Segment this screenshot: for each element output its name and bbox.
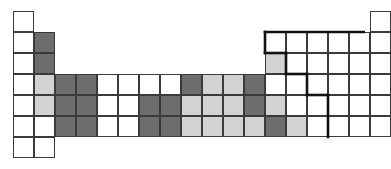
element-cell[interactable]	[13, 11, 34, 32]
element-cell[interactable]	[286, 53, 307, 74]
element-cell[interactable]	[55, 74, 76, 95]
element-cell[interactable]	[202, 95, 223, 116]
element-cell[interactable]	[265, 53, 286, 74]
element-cell[interactable]	[349, 32, 370, 53]
element-cell[interactable]	[34, 53, 55, 74]
element-cell[interactable]	[202, 116, 223, 137]
element-cell[interactable]	[13, 137, 34, 158]
element-cell[interactable]	[307, 95, 328, 116]
element-cell[interactable]	[34, 32, 55, 53]
element-cell[interactable]	[160, 116, 181, 137]
element-cell[interactable]	[34, 116, 55, 137]
element-cell[interactable]	[76, 74, 97, 95]
element-cell[interactable]	[370, 116, 391, 137]
element-cell[interactable]	[370, 95, 391, 116]
element-cell[interactable]	[13, 116, 34, 137]
element-cell[interactable]	[181, 116, 202, 137]
element-cell[interactable]	[13, 53, 34, 74]
element-cell[interactable]	[118, 95, 139, 116]
element-cell[interactable]	[160, 74, 181, 95]
element-cell[interactable]	[286, 116, 307, 137]
element-cell[interactable]	[118, 116, 139, 137]
element-cell[interactable]	[13, 95, 34, 116]
element-cell[interactable]	[370, 53, 391, 74]
element-cell[interactable]	[97, 95, 118, 116]
element-cell[interactable]	[349, 53, 370, 74]
element-cell[interactable]	[265, 116, 286, 137]
element-cell[interactable]	[13, 74, 34, 95]
element-cell[interactable]	[139, 74, 160, 95]
element-cell[interactable]	[76, 116, 97, 137]
element-cell[interactable]	[139, 95, 160, 116]
element-cell[interactable]	[202, 74, 223, 95]
element-cell[interactable]	[55, 116, 76, 137]
element-cell[interactable]	[349, 116, 370, 137]
element-cell[interactable]	[223, 116, 244, 137]
element-cell[interactable]	[286, 32, 307, 53]
element-cell[interactable]	[13, 32, 34, 53]
element-cell[interactable]	[265, 74, 286, 95]
element-cell[interactable]	[118, 74, 139, 95]
element-cell[interactable]	[328, 32, 349, 53]
element-cell[interactable]	[307, 116, 328, 137]
element-cell[interactable]	[307, 32, 328, 53]
element-cell[interactable]	[181, 74, 202, 95]
element-cell[interactable]	[328, 95, 349, 116]
element-cell[interactable]	[328, 116, 349, 137]
element-cell[interactable]	[349, 95, 370, 116]
element-cell[interactable]	[97, 74, 118, 95]
element-cell[interactable]	[76, 95, 97, 116]
element-cell[interactable]	[307, 53, 328, 74]
element-cell[interactable]	[370, 11, 391, 32]
element-cell[interactable]	[307, 74, 328, 95]
element-cell[interactable]	[370, 32, 391, 53]
element-cell[interactable]	[34, 74, 55, 95]
element-cell[interactable]	[97, 116, 118, 137]
element-cell[interactable]	[328, 74, 349, 95]
element-cell[interactable]	[244, 74, 265, 95]
element-cell[interactable]	[55, 95, 76, 116]
element-cell[interactable]	[181, 95, 202, 116]
element-cell[interactable]	[223, 74, 244, 95]
element-cell[interactable]	[244, 116, 265, 137]
element-cell[interactable]	[160, 95, 181, 116]
element-cell[interactable]	[34, 95, 55, 116]
element-cell[interactable]	[139, 116, 160, 137]
element-cell[interactable]	[370, 74, 391, 95]
element-cell[interactable]	[286, 74, 307, 95]
element-cell[interactable]	[34, 137, 55, 158]
element-cell[interactable]	[244, 95, 265, 116]
element-cell[interactable]	[328, 53, 349, 74]
element-cell[interactable]	[349, 74, 370, 95]
element-cell[interactable]	[265, 32, 286, 53]
element-cell[interactable]	[265, 95, 286, 116]
element-cell[interactable]	[223, 95, 244, 116]
element-cell[interactable]	[286, 95, 307, 116]
